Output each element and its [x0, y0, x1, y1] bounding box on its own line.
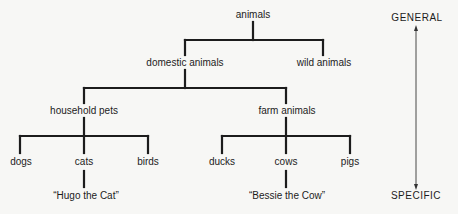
node-ducks: ducks [209, 157, 235, 167]
node-domestic-animals: domestic animals [146, 58, 223, 68]
node-cats: cats [75, 157, 93, 167]
node-hugo-the-cat: “Hugo the Cat” [53, 191, 119, 201]
general-specific-arrow [414, 25, 418, 190]
scale-label-specific: SPECIFIC [391, 191, 441, 201]
node-wild-animals: wild animals [297, 58, 351, 68]
node-household-pets: household pets [50, 106, 118, 116]
node-birds: birds [137, 157, 159, 167]
node-pigs: pigs [341, 157, 359, 167]
node-dogs: dogs [10, 157, 32, 167]
node-cows: cows [275, 157, 298, 167]
arrowhead-up-icon [414, 25, 418, 31]
scale-label-general: GENERAL [391, 13, 442, 23]
node-bessie-the-cow: “Bessie the Cow” [249, 191, 325, 201]
node-animals: animals [236, 10, 270, 20]
node-farm-animals: farm animals [258, 106, 315, 116]
